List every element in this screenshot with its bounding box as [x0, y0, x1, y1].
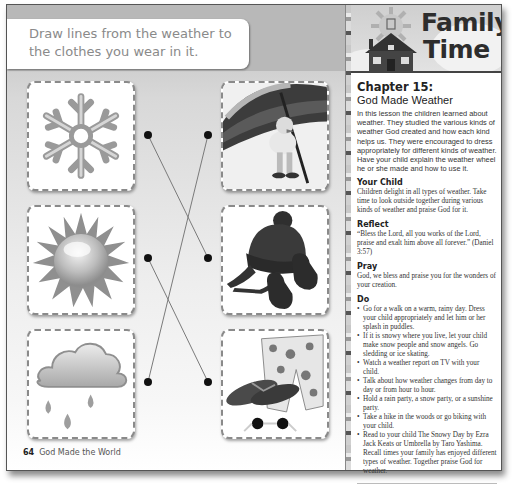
do-item: Go for a walk on a warm, rainy day. Dres…: [357, 305, 497, 332]
activity-page: Draw lines from the weather to the cloth…: [7, 5, 345, 470]
clothes-dot-2[interactable]: [204, 254, 212, 262]
section-heading-pray: Pray: [357, 262, 497, 272]
do-item: Hold a rain party, a snow party, or a su…: [357, 395, 497, 413]
clothes-dot-3[interactable]: [204, 378, 212, 386]
weather-dot-2[interactable]: [144, 254, 152, 262]
sun-icon: [29, 207, 133, 313]
chapter-intro: In this lesson the children learned abou…: [357, 109, 497, 173]
weather-dot-1[interactable]: [144, 131, 152, 139]
chapter-number: Chapter 15:: [357, 81, 497, 94]
title-family: Family: [421, 8, 501, 37]
do-list: Go for a walk on a warm, rainy day. Dres…: [357, 305, 497, 476]
do-item: Talk about how weather changes from day …: [357, 377, 497, 395]
do-item: If it is snowy where you live, let your …: [357, 332, 497, 359]
do-item: Read to your child The Snowy Day by Ezra…: [357, 431, 497, 476]
section-heading-reflect: Reflect: [357, 220, 497, 230]
instruction-text: Draw lines from the weather to the cloth…: [7, 19, 249, 69]
clothes-card-summer[interactable]: [221, 329, 329, 439]
family-time-title: Family Time: [421, 9, 501, 63]
umbrella-duck-image: [223, 83, 327, 189]
section-heading-do: Do: [357, 295, 497, 305]
title-time: Time: [421, 36, 501, 63]
page-number: 64: [23, 448, 34, 457]
snowflake-icon: [29, 83, 133, 189]
chapter-title: God Made Weather: [357, 94, 497, 107]
do-item: Watch a weather report on TV with your c…: [357, 359, 497, 377]
section-heading-your-child: Your Child: [357, 178, 497, 188]
book-spread: Draw lines from the weather to the cloth…: [6, 4, 502, 471]
weather-card-rain[interactable]: [27, 329, 135, 439]
clothes-dot-1[interactable]: [204, 131, 212, 139]
rain-cloud-icon: [29, 331, 133, 437]
section-text-pray: God, we bless and praise you for the won…: [357, 272, 497, 290]
weather-card-sun[interactable]: [27, 205, 135, 315]
family-time-header: Family Time: [351, 5, 501, 73]
do-item: Take a hike in the woods or go biking wi…: [357, 413, 497, 431]
section-text-your-child: Children delight in all types of weather…: [357, 188, 497, 215]
family-time-page: Family Time Chapter 15: God Made Weather…: [351, 5, 501, 470]
weather-dot-3[interactable]: [144, 378, 152, 386]
book-title: God Made the World: [39, 448, 121, 457]
swim-trunks-flipflops-sunglasses-image: [223, 331, 327, 437]
family-time-content: Chapter 15: God Made Weather In this les…: [357, 81, 497, 488]
clothes-card-winter[interactable]: [221, 205, 329, 315]
section-text-reflect: “Bless the Lord, all you works of the Lo…: [357, 230, 497, 257]
winter-hat-mittens-image: [223, 207, 327, 313]
divider: [357, 483, 497, 484]
clothes-card-umbrella[interactable]: [221, 81, 329, 191]
weather-card-snowflake[interactable]: [27, 81, 135, 191]
page-footer: 64God Made the World: [23, 448, 121, 457]
